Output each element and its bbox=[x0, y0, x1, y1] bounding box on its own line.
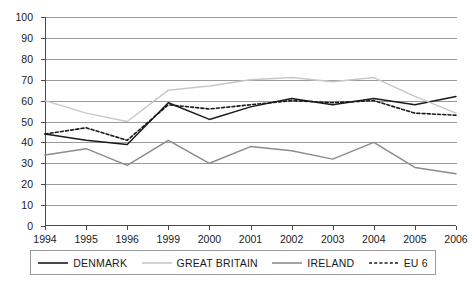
legend-swatch bbox=[369, 259, 399, 267]
legend-label: GREAT BRITAIN bbox=[177, 257, 258, 269]
legend-item-eu-6[interactable]: EU 6 bbox=[369, 257, 428, 269]
x-axis-tick-label: 2001 bbox=[231, 234, 271, 245]
legend-label: IRELAND bbox=[307, 257, 354, 269]
x-axis-tick-mark bbox=[127, 226, 128, 230]
legend-swatch bbox=[38, 259, 68, 267]
y-axis-tick-mark bbox=[41, 205, 45, 206]
legend-item-denmark[interactable]: DENMARK bbox=[38, 257, 127, 269]
x-axis-tick-label: 1995 bbox=[66, 234, 106, 245]
x-axis-tick-mark bbox=[456, 226, 457, 230]
legend-label: DENMARK bbox=[73, 257, 127, 269]
chart-legend: DENMARKGREAT BRITAINIRELANDEU 6 bbox=[30, 250, 436, 275]
x-axis-tick-label: 1994 bbox=[25, 234, 65, 245]
y-axis-tick-label: 90 bbox=[3, 33, 33, 44]
y-axis-tick-mark bbox=[41, 80, 45, 81]
y-axis-tick-label: 0 bbox=[3, 221, 33, 232]
x-axis-tick-label: 2003 bbox=[313, 234, 353, 245]
x-axis-tick-mark bbox=[209, 226, 210, 230]
x-axis-tick-mark bbox=[333, 226, 334, 230]
gridline bbox=[46, 122, 457, 123]
gridline bbox=[46, 142, 457, 143]
legend-item-ireland[interactable]: IRELAND bbox=[272, 257, 354, 269]
x-axis-tick-mark bbox=[168, 226, 169, 230]
y-axis-tick-mark bbox=[41, 122, 45, 123]
gridline bbox=[46, 184, 457, 185]
x-axis-tick-mark bbox=[374, 226, 375, 230]
x-axis-tick-mark bbox=[292, 226, 293, 230]
y-axis-tick-mark bbox=[41, 59, 45, 60]
x-axis-tick-label: 2004 bbox=[354, 234, 394, 245]
gridline bbox=[46, 205, 457, 206]
x-axis-tick-label: 1996 bbox=[107, 234, 147, 245]
x-axis-tick-mark bbox=[45, 226, 46, 230]
y-axis-tick-mark bbox=[41, 17, 45, 18]
legend-swatch bbox=[142, 259, 172, 267]
y-axis-tick-mark bbox=[41, 163, 45, 164]
y-axis-tick-label: 10 bbox=[3, 200, 33, 211]
x-axis-tick-label: 1999 bbox=[148, 234, 188, 245]
plot-area bbox=[45, 17, 456, 226]
y-axis-tick-label: 20 bbox=[3, 179, 33, 190]
y-axis-tick-mark bbox=[41, 101, 45, 102]
gridline bbox=[46, 80, 457, 81]
y-axis-tick-label: 50 bbox=[3, 117, 33, 128]
x-axis-tick-mark bbox=[415, 226, 416, 230]
y-axis-tick-label: 40 bbox=[3, 137, 33, 148]
x-axis-tick-label: 2002 bbox=[272, 234, 312, 245]
y-axis-tick-mark bbox=[41, 38, 45, 39]
y-axis-tick-mark bbox=[41, 142, 45, 143]
x-axis-tick-mark bbox=[86, 226, 87, 230]
x-axis-tick-mark bbox=[251, 226, 252, 230]
x-axis-tick-label: 2006 bbox=[436, 234, 472, 245]
gridline bbox=[46, 17, 457, 18]
gridline bbox=[46, 38, 457, 39]
legend-swatch bbox=[272, 259, 302, 267]
y-axis-tick-label: 30 bbox=[3, 158, 33, 169]
y-axis-tick-mark bbox=[41, 184, 45, 185]
x-axis-tick-label: 2005 bbox=[395, 234, 435, 245]
y-axis-tick-label: 70 bbox=[3, 75, 33, 86]
gridline bbox=[46, 101, 457, 102]
legend-item-great-britain[interactable]: GREAT BRITAIN bbox=[142, 257, 258, 269]
legend-label: EU 6 bbox=[404, 257, 428, 269]
gridline bbox=[46, 59, 457, 60]
y-axis-tick-label: 80 bbox=[3, 54, 33, 65]
y-axis-tick-label: 60 bbox=[3, 96, 33, 107]
x-axis-tick-label: 2000 bbox=[189, 234, 229, 245]
y-axis-tick-label: 100 bbox=[3, 12, 33, 23]
gridline bbox=[46, 163, 457, 164]
